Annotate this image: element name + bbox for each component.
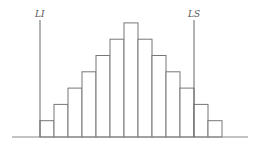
histogram-bar — [68, 88, 82, 137]
histogram-bar — [152, 56, 166, 138]
histogram-bar — [194, 104, 208, 137]
histogram-bar — [138, 39, 152, 137]
histogram-bar — [180, 88, 194, 137]
histogram-bar — [82, 72, 96, 137]
histogram-bars — [40, 23, 222, 137]
histogram-bar — [54, 104, 68, 137]
upper-limit-label: LS — [187, 9, 200, 19]
histogram-bar — [166, 72, 180, 137]
histogram-bar — [96, 56, 110, 138]
histogram-bar — [110, 39, 124, 137]
histogram-bar — [40, 121, 54, 137]
histogram-bar — [208, 121, 222, 137]
histogram-bar — [124, 23, 138, 137]
lower-limit-label: LI — [34, 9, 45, 19]
histogram-chart: LI LS — [0, 0, 261, 145]
